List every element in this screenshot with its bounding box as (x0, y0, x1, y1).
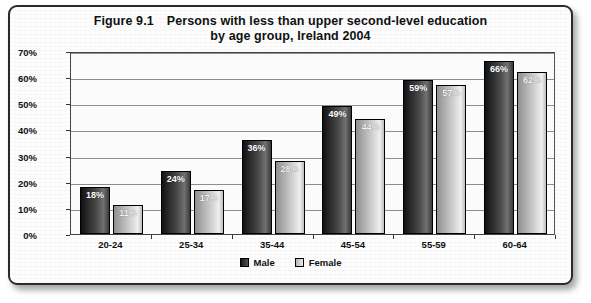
bar-male-35-44[interactable]: 36% (242, 140, 272, 234)
bar-female-55-59[interactable]: 57% (436, 85, 466, 234)
legend-item-male: Male (240, 257, 275, 268)
bar-value-label: 66% (485, 64, 513, 74)
bar-group: 18%11% (80, 53, 143, 234)
gridline (71, 210, 554, 211)
bar-value-label: 11% (114, 208, 142, 218)
figure-number: Figure 9.1 (94, 14, 154, 28)
chart-title-text: Persons with less than upper second-leve… (167, 14, 487, 28)
x-axis-tick-label: 20-24 (65, 239, 155, 250)
chart-title-line-2: by age group, Ireland 2004 (10, 29, 571, 44)
y-axis-tick-label: 50% (0, 99, 37, 110)
bar-value-label: 24% (162, 174, 190, 184)
gridline (71, 105, 554, 106)
legend-swatch-male-icon (240, 258, 249, 267)
y-axis-tick-label: 0% (0, 230, 37, 241)
bar-male-20-24[interactable]: 18% (80, 187, 110, 234)
gridline (71, 184, 554, 185)
legend-item-female: Female (295, 257, 342, 268)
bar-male-45-54[interactable]: 49% (322, 106, 352, 234)
x-axis-tick-label: 60-64 (470, 239, 560, 250)
legend-label-male: Male (254, 257, 275, 268)
bar-male-60-64[interactable]: 66% (484, 61, 514, 234)
x-axis-tick-label: 55-59 (389, 239, 479, 250)
gridline (71, 79, 554, 80)
figure-card: Figure 9.1Persons with less than upper s… (8, 5, 573, 285)
y-axis-tick-label: 70% (0, 47, 37, 58)
chart-title: Figure 9.1Persons with less than upper s… (10, 14, 571, 44)
gridline (71, 53, 554, 54)
bar-value-label: 28% (276, 164, 304, 174)
chart-legend: Male Female (10, 257, 571, 268)
y-axis-tick-label: 10% (0, 204, 37, 215)
bar-female-25-34[interactable]: 17% (194, 190, 224, 234)
x-axis-tick-label: 25-34 (146, 239, 236, 250)
gridline (71, 131, 554, 132)
bar-value-label: 17% (195, 193, 223, 203)
x-axis-tick-label: 45-54 (308, 239, 398, 250)
bar-value-label: 44% (356, 122, 384, 132)
bar-value-label: 49% (323, 109, 351, 119)
legend-swatch-female-icon (295, 258, 304, 267)
chart-title-line-1: Figure 9.1Persons with less than upper s… (10, 14, 571, 29)
x-axis-tick-label: 35-44 (227, 239, 317, 250)
bar-value-label: 36% (243, 143, 271, 153)
y-axis-tick-label: 60% (0, 73, 37, 84)
y-axis-tick-label: 40% (0, 125, 37, 136)
bar-female-60-64[interactable]: 62% (517, 72, 547, 234)
legend-label-female: Female (309, 257, 342, 268)
bar-group: 49%44% (322, 53, 385, 234)
y-axis-tick-label: 20% (0, 178, 37, 189)
x-axis-tick-mark (555, 235, 556, 239)
bar-value-label: 57% (437, 88, 465, 98)
y-axis-tick-mark (66, 235, 70, 236)
bar-female-35-44[interactable]: 28% (275, 161, 305, 234)
plot-area: 18%11%24%17%36%28%49%44%59%57%66%62% (70, 52, 555, 235)
y-axis-tick-label: 30% (0, 152, 37, 163)
bar-group: 66%62% (484, 53, 547, 234)
bar-group: 24%17% (161, 53, 224, 234)
bar-male-55-59[interactable]: 59% (403, 80, 433, 234)
bar-group: 36%28% (242, 53, 305, 234)
bar-male-25-34[interactable]: 24% (161, 171, 191, 234)
bar-value-label: 59% (404, 83, 432, 93)
gridline (71, 158, 554, 159)
bar-value-label: 62% (518, 75, 546, 85)
bar-value-label: 18% (81, 190, 109, 200)
bar-group: 59%57% (403, 53, 466, 234)
bar-female-45-54[interactable]: 44% (355, 119, 385, 234)
bar-female-20-24[interactable]: 11% (113, 205, 143, 234)
